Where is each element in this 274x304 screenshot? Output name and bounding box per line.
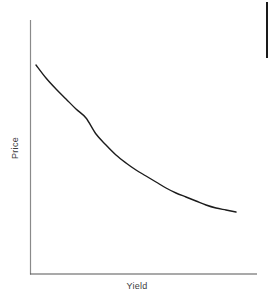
plot-area [0, 0, 274, 304]
price-yield-curve [36, 65, 236, 212]
y-axis-label-text: Price [10, 137, 20, 159]
right-edge-bar [266, 2, 268, 58]
y-axis-label: Price [0, 118, 30, 178]
price-yield-chart: Price Yield [0, 0, 274, 304]
x-axis-label: Yield [0, 281, 274, 291]
